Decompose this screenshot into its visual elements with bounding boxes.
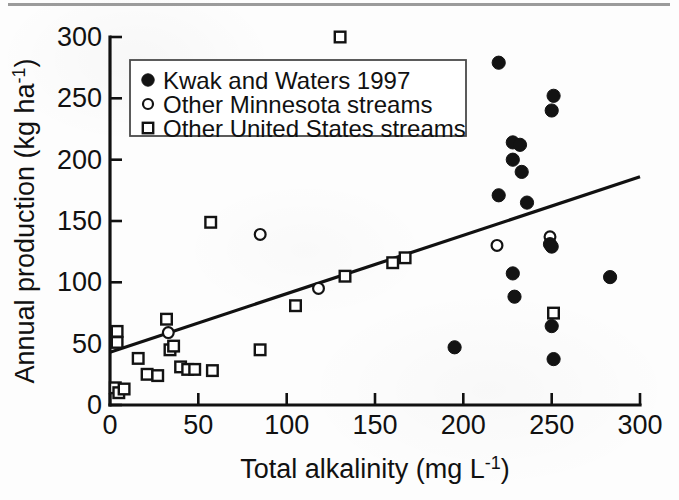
data-point-filled-circle (513, 138, 526, 151)
data-point-filled-circle (492, 189, 505, 202)
x-axis-title: Total alkalinity (mg L-1) (240, 453, 510, 484)
data-point-square (119, 384, 130, 395)
data-point-square (335, 32, 346, 43)
data-point-square (168, 341, 179, 352)
data-point-filled-circle (492, 56, 505, 69)
x-ticklabel-50: 50 (183, 410, 213, 440)
data-point-square (548, 308, 559, 319)
data-point-square (112, 326, 123, 337)
data-point-open-circle (163, 327, 174, 338)
legend-item-kwak-and-waters-1997[interactable]: Kwak and Waters 1997 (142, 67, 410, 94)
y-ticklabel-250: 250 (57, 83, 102, 113)
x-ticklabel-150: 150 (352, 410, 397, 440)
x-ticklabel-300: 300 (617, 410, 662, 440)
data-point-square (340, 271, 351, 282)
data-point-filled-circle (506, 153, 519, 166)
data-point-open-circle (313, 283, 324, 294)
y-ticklabel-50: 50 (72, 329, 102, 359)
x-ticklabel-100: 100 (264, 410, 309, 440)
filled-circle-icon (142, 74, 154, 86)
data-point-square (290, 300, 301, 311)
data-point-open-circle (492, 240, 503, 251)
data-point-square (387, 257, 398, 268)
legend-label: Other Minnesota streams (163, 91, 432, 118)
data-point-filled-circle (448, 341, 461, 354)
legend[interactable]: Kwak and Waters 1997 Other Minnesota str… (130, 60, 466, 142)
regression-line (110, 177, 640, 352)
legend-item-other-minnesota-streams[interactable]: Other Minnesota streams (143, 91, 432, 118)
data-point-square (161, 314, 172, 325)
legend-label: Other United States streams (163, 115, 466, 142)
data-point-square (152, 370, 163, 381)
data-point-filled-circle (506, 267, 519, 280)
legend-item-other-united-states-streams[interactable]: Other United States streams (143, 115, 466, 142)
y-ticklabel-100: 100 (57, 267, 102, 297)
data-point-filled-circle (545, 240, 558, 253)
data-point-filled-circle (545, 104, 558, 117)
y-tick-labels: 0 50 100 150 200 250 300 (57, 22, 102, 420)
data-point-filled-circle (547, 89, 560, 102)
data-point-square (133, 353, 144, 364)
data-point-filled-circle (547, 353, 560, 366)
data-point-square (400, 253, 411, 264)
data-point-square (255, 345, 266, 356)
scatter-plot: 0 50 100 150 200 250 300 0 50 100 150 20… (0, 0, 679, 500)
series-other-minnesota-streams (163, 229, 555, 338)
data-point-filled-circle (604, 271, 617, 284)
data-point-filled-circle (508, 290, 521, 303)
data-point-filled-circle (515, 165, 528, 178)
data-point-open-circle (255, 229, 266, 240)
x-ticklabel-200: 200 (441, 410, 486, 440)
y-ticklabel-300: 300 (57, 22, 102, 52)
y-ticklabel-0: 0 (87, 390, 102, 420)
x-tick-labels: 0 50 100 150 200 250 300 (102, 410, 662, 440)
data-point-square (205, 217, 216, 228)
open-circle-icon (143, 99, 153, 109)
data-point-square (189, 364, 200, 375)
x-ticklabel-250: 250 (529, 410, 574, 440)
x-axis-ticks (110, 393, 640, 405)
data-point-filled-circle (520, 196, 533, 209)
y-axis-title: Annual production (kg ha-1) (9, 58, 40, 383)
data-point-square (207, 365, 218, 376)
open-square-icon (143, 123, 153, 133)
data-point-filled-circle (545, 320, 558, 333)
figure-page: 0 50 100 150 200 250 300 0 50 100 150 20… (0, 0, 679, 500)
y-ticklabel-200: 200 (57, 145, 102, 175)
y-ticklabel-150: 150 (57, 206, 102, 236)
legend-label: Kwak and Waters 1997 (163, 67, 410, 94)
data-point-square (142, 369, 153, 380)
x-ticklabel-0: 0 (102, 410, 117, 440)
data-point-square (112, 337, 123, 348)
